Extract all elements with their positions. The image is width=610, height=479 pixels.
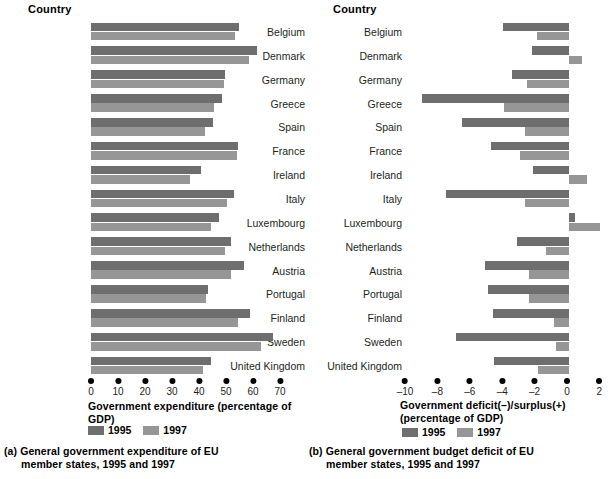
bar-1995 xyxy=(91,213,219,222)
bar-1997 xyxy=(91,318,238,327)
row-bars xyxy=(305,20,610,44)
panel-b-country-header: Country xyxy=(333,3,377,15)
bar-1997 xyxy=(569,223,600,232)
axis-tick: 60 xyxy=(247,378,258,397)
row-bars xyxy=(305,115,610,139)
panel-a-legend: 1995 1997 xyxy=(88,424,195,436)
bar-1995 xyxy=(91,118,213,127)
chart-row: Germany xyxy=(305,68,610,92)
row-bars xyxy=(305,44,610,68)
panel-b-caption-line2: member states, 1995 and 1997 xyxy=(309,458,599,471)
bar-1995 xyxy=(422,94,569,103)
bar-1997 xyxy=(91,223,211,232)
legend-swatch-1997-icon xyxy=(143,426,159,435)
bar-1997 xyxy=(91,103,214,112)
bar-1997 xyxy=(554,318,569,327)
legend-label-1995: 1995 xyxy=(108,424,131,436)
axis-tick: –10 xyxy=(397,378,414,397)
bar-1997 xyxy=(537,32,569,41)
tick-dot-icon xyxy=(532,378,538,384)
axis-tick: –6 xyxy=(464,378,475,397)
tick-label: 20 xyxy=(139,386,150,397)
tick-dot-icon xyxy=(277,378,283,384)
bar-1997 xyxy=(546,247,569,256)
bar-1995 xyxy=(533,166,569,175)
bar-1997 xyxy=(91,366,203,375)
tick-label: 0 xyxy=(88,386,94,397)
bar-1997 xyxy=(527,80,569,89)
chart-row: United Kingdom xyxy=(305,354,610,378)
tick-dot-icon xyxy=(142,378,148,384)
chart-row: Austria xyxy=(305,259,610,283)
row-bars xyxy=(91,211,299,235)
tick-dot-icon xyxy=(223,378,229,384)
tick-label: 60 xyxy=(247,386,258,397)
tick-label: 2 xyxy=(596,386,602,397)
bar-1995 xyxy=(493,309,569,318)
bar-1997 xyxy=(91,127,205,136)
tick-label: 70 xyxy=(274,386,285,397)
bar-1995 xyxy=(91,142,238,151)
chart-row: Ireland xyxy=(305,163,610,187)
chart-row: Spain xyxy=(305,115,610,139)
bar-1995 xyxy=(517,237,569,246)
panel-b-deficit: Country BelgiumDenmarkGermanyGreeceSpain… xyxy=(305,0,610,479)
bar-1995 xyxy=(569,213,575,222)
chart-row: Finland xyxy=(0,306,305,330)
tick-label: –10 xyxy=(397,386,414,397)
legend-swatch-1995-icon xyxy=(402,428,418,437)
bar-1995 xyxy=(91,309,250,318)
chart-row: Spain xyxy=(0,115,305,139)
bar-1995 xyxy=(91,261,244,270)
chart-row: France xyxy=(0,139,305,163)
tick-dot-icon xyxy=(169,378,175,384)
tick-label: 30 xyxy=(166,386,177,397)
row-bars xyxy=(305,92,610,116)
panel-a-expenditure: Country BelgiumDenmarkGermanyGreeceSpain… xyxy=(0,0,305,479)
bar-1997 xyxy=(556,342,569,351)
panel-a-caption-line1: (a) General government expenditure of EU xyxy=(4,445,219,457)
tick-dot-icon xyxy=(564,378,570,384)
bar-1997 xyxy=(525,127,569,136)
row-bars xyxy=(91,187,299,211)
legend-label-1995: 1995 xyxy=(422,426,445,438)
bar-1995 xyxy=(503,23,569,32)
chart-row: Greece xyxy=(0,92,305,116)
bar-1995 xyxy=(494,357,569,366)
bar-1997 xyxy=(538,366,569,375)
row-bars xyxy=(305,330,610,354)
bar-1997 xyxy=(504,103,569,112)
bar-1997 xyxy=(91,199,227,208)
tick-dot-icon xyxy=(250,378,256,384)
chart-row: Austria xyxy=(0,259,305,283)
bar-1997 xyxy=(569,175,587,184)
chart-row: Italy xyxy=(0,187,305,211)
row-bars xyxy=(91,259,299,283)
panel-b-axis-title: Government deficit(–)/surplus(+) (percen… xyxy=(400,399,610,425)
chart-row: Germany xyxy=(0,68,305,92)
row-bars xyxy=(91,235,299,259)
row-bars xyxy=(305,306,610,330)
axis-tick: 40 xyxy=(193,378,204,397)
row-bars xyxy=(91,330,299,354)
row-bars xyxy=(91,92,299,116)
tick-dot-icon xyxy=(88,378,94,384)
bar-1997 xyxy=(91,32,235,41)
bar-1997 xyxy=(529,270,570,279)
row-bars xyxy=(305,163,610,187)
row-bars xyxy=(91,44,299,68)
chart-row: Finland xyxy=(305,306,610,330)
axis-tick: 0 xyxy=(88,378,94,397)
chart-row: Netherlands xyxy=(0,235,305,259)
tick-dot-icon xyxy=(434,378,440,384)
tick-label: 40 xyxy=(193,386,204,397)
row-bars xyxy=(91,20,299,44)
panel-a-caption: (a) General government expenditure of EU… xyxy=(4,445,294,471)
panel-a-plot-area: BelgiumDenmarkGermanyGreeceSpainFranceIr… xyxy=(0,20,305,378)
panel-b-plot-area: BelgiumDenmarkGermanyGreeceSpainFranceIr… xyxy=(305,20,610,378)
axis-tick: 70 xyxy=(274,378,285,397)
axis-tick: 0 xyxy=(564,378,570,397)
panel-a-axis-title: Government expenditure (percentage of GD… xyxy=(88,400,318,426)
chart-row: Denmark xyxy=(0,44,305,68)
bar-1997 xyxy=(91,151,237,160)
